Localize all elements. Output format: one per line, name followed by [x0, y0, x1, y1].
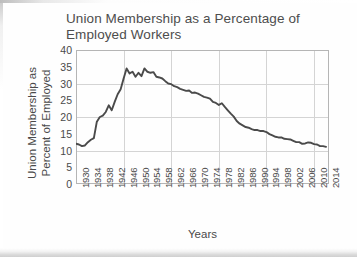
x-tick-label: 1970	[199, 168, 210, 188]
y-tick-label: 30	[50, 79, 72, 89]
y-tick-label: 10	[50, 146, 72, 156]
plot-area	[76, 50, 329, 184]
x-tick-label: 1994	[270, 168, 281, 188]
x-axis-tick-labels: 1930193419381942194619501954195819621966…	[76, 186, 329, 226]
x-tick-label: 1942	[116, 168, 127, 188]
x-tick-label: 1954	[151, 168, 162, 188]
x-tick-label: 1990	[259, 168, 270, 188]
x-tick-label: 1938	[104, 168, 115, 188]
chart-title-line-1: Union Membership as a Percentage of	[66, 11, 300, 26]
x-axis-label: Years	[76, 228, 329, 240]
x-tick-label: 1958	[163, 168, 174, 188]
x-tick-label: 1978	[223, 168, 234, 188]
horizontal-gridlines	[76, 85, 329, 152]
x-tick-label: 1982	[235, 168, 246, 188]
x-tick-label: 1998	[282, 168, 293, 188]
y-axis-label-line-1: Union Membership as	[26, 67, 38, 179]
x-tick-label: 1950	[140, 168, 151, 188]
x-tick-label: 2010	[318, 168, 329, 188]
y-tick-label: 25	[50, 95, 72, 105]
line-chart-svg	[76, 50, 329, 184]
x-tick-label: 1966	[187, 168, 198, 188]
y-tick-label: 20	[50, 112, 72, 122]
chart-page: Union Membership as a Percentage of Empl…	[0, 0, 357, 257]
y-tick-label: 5	[50, 162, 72, 172]
x-tick-label: 2002	[294, 168, 305, 188]
x-tick-label: 1974	[211, 168, 222, 188]
y-tick-label: 0	[50, 179, 72, 189]
x-tick-label: 1986	[247, 168, 258, 188]
x-tick-label: 1934	[92, 168, 103, 188]
x-tick-label: 1930	[80, 168, 91, 188]
scan-edge-left	[0, 0, 3, 257]
y-axis-tick-labels: 4035302520151050	[48, 0, 72, 257]
x-tick-label: 1962	[175, 168, 186, 188]
x-tick-label: 1946	[128, 168, 139, 188]
x-tick-label: 2006	[306, 168, 317, 188]
x-tick-label: 2014	[330, 168, 341, 188]
data-series-line	[76, 68, 326, 146]
y-tick-label: 15	[50, 129, 72, 139]
chart-title-line-2: Employed Workers	[66, 27, 181, 42]
y-tick-label: 40	[50, 45, 72, 55]
chart-title: Union Membership as a Percentage of Empl…	[66, 11, 351, 42]
y-tick-label: 35	[50, 62, 72, 72]
